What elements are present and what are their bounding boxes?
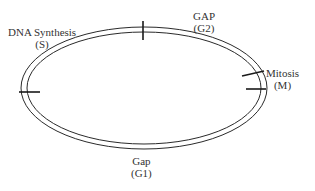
phase-name: GAP (193, 10, 215, 22)
phase-abbr: (M) (266, 79, 299, 91)
phase-abbr: (G1) (131, 167, 152, 179)
boundary-tick-g2-m (242, 71, 264, 76)
phase-name: Mitosis (266, 67, 299, 79)
label-gap-g2: GAP (G2) (193, 10, 215, 34)
label-dna-synthesis: DNA Synthesis (S) (8, 26, 76, 50)
cell-cycle-diagram: DNA Synthesis (S) GAP (G2) Mitosis (M) G… (0, 0, 315, 191)
phase-name: Gap (131, 155, 152, 167)
label-gap-g1: Gap (G1) (131, 155, 152, 179)
phase-name: DNA Synthesis (8, 26, 76, 38)
phase-abbr: (S) (8, 38, 76, 50)
label-mitosis: Mitosis (M) (266, 67, 299, 91)
phase-abbr: (G2) (193, 22, 215, 34)
